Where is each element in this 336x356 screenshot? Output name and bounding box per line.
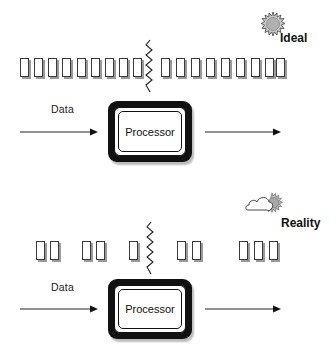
cloud-sun-icon [244, 190, 286, 218]
data-packet [50, 241, 59, 260]
data-packet [133, 58, 142, 77]
input-arrow [20, 127, 100, 137]
data-packet [20, 58, 29, 77]
data-packet [251, 58, 260, 77]
data-packet [176, 58, 185, 77]
data-packet [34, 58, 43, 77]
data-packet [276, 58, 285, 77]
data-packet [191, 58, 200, 77]
ideal-title: Ideal [280, 31, 307, 45]
processor-box: Processor [108, 101, 192, 162]
data-packet [96, 241, 105, 260]
output-arrow [205, 304, 285, 314]
data-packet [119, 58, 128, 77]
reality-title: Reality [281, 216, 320, 230]
zigzag-break-icon [144, 40, 156, 92]
input-data-label: Data [51, 281, 74, 293]
data-packet [129, 241, 138, 260]
data-packet [269, 241, 278, 260]
data-packet [62, 58, 71, 77]
data-packet [161, 58, 170, 77]
data-packet [36, 241, 45, 260]
data-packet [77, 58, 86, 77]
data-packet [105, 58, 114, 77]
zigzag-break-icon [145, 222, 157, 274]
data-packet [221, 58, 230, 77]
data-packet [91, 58, 100, 77]
data-packet [177, 241, 186, 260]
data-packet [265, 58, 274, 77]
input-data-label: Data [51, 103, 74, 115]
data-packet [192, 241, 201, 260]
data-packet [82, 241, 91, 260]
data-packet [236, 58, 245, 77]
processor-label: Processor [125, 126, 175, 138]
data-packet [254, 241, 263, 260]
data-packet [206, 58, 215, 77]
processor-label: Processor [125, 303, 175, 315]
data-packet [48, 58, 57, 77]
processor-box: Processor [108, 279, 192, 339]
input-arrow [20, 304, 100, 314]
data-packet [239, 241, 248, 260]
output-arrow [205, 127, 285, 137]
